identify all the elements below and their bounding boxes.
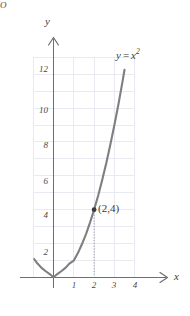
y-tick-label-4: 4 — [32, 211, 48, 220]
y-axis — [49, 38, 59, 289]
y-tick-label-6: 6 — [32, 177, 48, 186]
x-tick-label-4: 4 — [128, 281, 142, 290]
equation-equals: = — [121, 49, 131, 61]
y-axis-label: y — [45, 16, 50, 27]
y-tick-label-2: 2 — [32, 248, 48, 257]
grid-lines — [33, 57, 135, 278]
x-tick-label-1: 1 — [67, 281, 81, 290]
plot-canvas — [0, 0, 190, 316]
y-tick-label-12: 12 — [28, 65, 48, 74]
x-tick-label-3: 3 — [107, 281, 121, 290]
x-tick-label-2: 2 — [87, 281, 101, 290]
point-marker-2-4 — [92, 207, 97, 212]
curve-equation-label: y=x2 — [116, 48, 140, 61]
x-axis-label: x — [174, 271, 179, 282]
y-tick-label-8: 8 — [32, 141, 48, 150]
point-label-2-4: (2,4) — [98, 203, 119, 214]
function-plot-figure: y x y=x2 (2,4) O 2 4 6 8 10 12 1 2 3 4 — [0, 0, 190, 316]
y-tick-label-10: 10 — [28, 106, 48, 115]
equation-exponent: 2 — [136, 47, 140, 56]
